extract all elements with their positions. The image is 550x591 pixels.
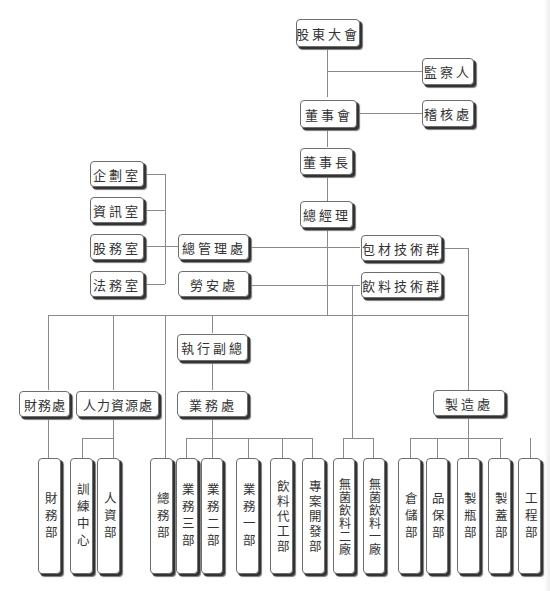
connector xyxy=(530,438,531,458)
connector xyxy=(48,414,49,458)
connector xyxy=(48,315,49,390)
node-project-dev: 專案開發部 xyxy=(302,458,325,574)
connector xyxy=(48,315,468,316)
connector xyxy=(165,246,179,247)
node-hr-div: 人力資源處 xyxy=(76,391,159,417)
node-aseptic1: 無菌飲料一廠 xyxy=(363,458,385,574)
node-board: 董事會 xyxy=(300,100,357,128)
connector xyxy=(146,210,165,211)
right-edge-shade xyxy=(544,0,550,591)
node-sales-div: 業務處 xyxy=(177,391,248,417)
connector xyxy=(146,246,165,247)
node-qa-dept: 品保部 xyxy=(426,458,448,574)
node-cap-dept: 製蓋部 xyxy=(488,458,511,574)
connector xyxy=(113,438,114,458)
connector xyxy=(327,228,328,315)
node-finance-div: 財務處 xyxy=(19,391,70,417)
connector xyxy=(212,315,213,333)
node-general-admin: 總管理處 xyxy=(178,234,249,260)
connector xyxy=(468,438,469,458)
connector xyxy=(212,361,213,390)
connector xyxy=(146,174,165,175)
connector xyxy=(113,315,114,390)
node-beverage-tech: 飲料技術群 xyxy=(361,272,442,298)
connector xyxy=(443,248,468,249)
connector xyxy=(82,438,83,458)
connector xyxy=(250,247,360,248)
node-supervisor: 監察人 xyxy=(422,58,474,85)
node-manufacturing-div: 製造處 xyxy=(433,390,505,416)
connector xyxy=(410,438,411,458)
connector xyxy=(212,414,213,438)
node-sales2: 業務二部 xyxy=(201,458,223,574)
node-training-center: 訓練中心 xyxy=(70,458,93,574)
connector xyxy=(410,438,503,439)
connector xyxy=(282,438,283,458)
connector xyxy=(500,438,501,458)
connector xyxy=(437,438,438,458)
node-chairman: 董事長 xyxy=(300,148,353,175)
node-audit: 稽核處 xyxy=(422,100,474,127)
connector xyxy=(327,175,328,201)
connector xyxy=(82,438,113,439)
node-shareholders-meeting: 股東大會 xyxy=(296,19,360,47)
connector xyxy=(165,174,166,284)
node-packaging-tech: 包材技術群 xyxy=(361,235,442,261)
node-aseptic2: 無菌飲料二廠 xyxy=(333,458,355,574)
node-oem-dept: 飲料代工部 xyxy=(270,458,293,574)
connector xyxy=(327,129,328,147)
node-planning-office: 企劃室 xyxy=(90,161,144,187)
node-engineering: 工程部 xyxy=(518,458,541,574)
connector xyxy=(352,285,353,438)
node-stock-office: 股務室 xyxy=(90,234,144,260)
connector xyxy=(327,71,422,72)
node-info-office: 資訊室 xyxy=(90,197,144,223)
connector xyxy=(113,414,114,438)
connector xyxy=(248,438,249,458)
node-general-manager: 總經理 xyxy=(300,201,353,228)
node-hr-dept: 人資部 xyxy=(97,458,120,574)
node-sales1: 業務一部 xyxy=(236,458,259,574)
connector xyxy=(165,315,166,458)
node-bottle-dept: 製瓶部 xyxy=(457,458,480,574)
connector xyxy=(468,248,469,390)
connector xyxy=(468,414,469,438)
connector xyxy=(186,438,187,458)
node-sales3: 業務三部 xyxy=(176,458,198,574)
node-labor-safety: 勞安處 xyxy=(178,271,249,297)
connector xyxy=(212,438,213,458)
node-warehouse: 倉儲部 xyxy=(398,458,421,574)
node-exec-vp: 執行副總 xyxy=(177,334,248,361)
connector xyxy=(343,438,344,458)
node-legal-office: 法務室 xyxy=(90,271,144,297)
connector xyxy=(186,438,312,439)
connector xyxy=(343,438,373,439)
connector xyxy=(312,438,313,458)
node-finance-dept: 財務部 xyxy=(38,458,61,574)
connector xyxy=(327,47,328,97)
connector xyxy=(357,113,422,114)
node-general-affairs: 總務部 xyxy=(150,458,173,574)
connector xyxy=(250,285,360,286)
connector xyxy=(373,438,374,458)
connector xyxy=(146,284,165,285)
